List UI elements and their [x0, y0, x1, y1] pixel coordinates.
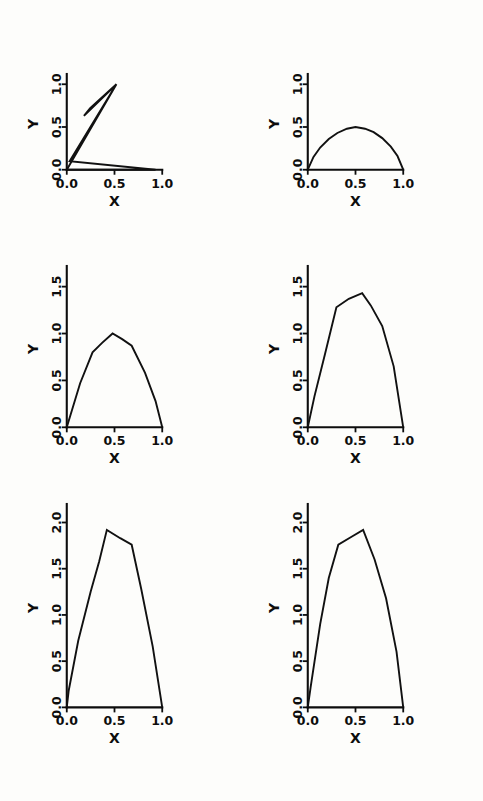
y-tick-label: 1.5: [290, 276, 305, 298]
x-tick-label: 0.5: [344, 713, 366, 728]
plot-panel-5: 0.00.51.00.00.51.01.52.0XY: [0, 490, 241, 740]
y-tick-label: 0.5: [49, 116, 64, 138]
figure-canvas: 0.00.51.00.00.51.0XY 0.00.51.00.00.51.0X…: [0, 0, 483, 801]
plot-panel: 0.00.51.00.00.51.0XY: [241, 14, 482, 264]
x-tick-label: 0.5: [103, 176, 125, 191]
y-tick-label: 0.5: [290, 116, 305, 138]
y-axis-title: Y: [25, 343, 41, 355]
x-axis-title: X: [350, 193, 361, 209]
x-tick-label: 0.5: [103, 713, 125, 728]
y-tick-label: 1.0: [49, 322, 64, 344]
y-axis-title: Y: [266, 343, 282, 355]
y-tick-label: 0.0: [49, 696, 64, 718]
y-tick-label: 0.0: [290, 158, 305, 180]
y-tick-label: 1.0: [290, 73, 305, 95]
x-tick-label: 1.0: [151, 713, 173, 728]
x-axis-title: X: [109, 450, 120, 466]
x-axis-title: X: [350, 730, 361, 746]
x-tick-label: 1.0: [392, 433, 414, 448]
plot-panel-6: 0.00.51.00.00.51.01.52.0XY: [241, 490, 482, 740]
x-axis-title: X: [350, 450, 361, 466]
y-axis-title: Y: [266, 118, 282, 130]
x-tick-label: 0.5: [103, 433, 125, 448]
y-tick-label: 0.0: [290, 696, 305, 718]
plot-panel-1: 0.00.51.00.00.51.0XY: [0, 14, 241, 264]
y-axis-title: Y: [25, 118, 41, 130]
y-axis-title: Y: [266, 602, 282, 614]
data-curve: [308, 293, 403, 427]
y-tick-label: 0.0: [49, 158, 64, 180]
y-tick-label: 1.0: [290, 322, 305, 344]
y-tick-label: 0.5: [290, 369, 305, 391]
y-tick-label: 1.5: [49, 276, 64, 298]
data-curve: [308, 530, 403, 708]
plot-panel-3: 0.00.51.00.00.51.01.5XY: [0, 248, 241, 498]
x-tick-label: 0.5: [344, 176, 366, 191]
y-tick-label: 0.0: [290, 416, 305, 438]
x-axis-title: X: [109, 193, 120, 209]
plot-panel: 0.00.51.00.00.51.01.52.0XY: [241, 490, 482, 740]
x-tick-label: 0.5: [344, 433, 366, 448]
y-tick-label: 0.5: [290, 650, 305, 672]
plot-panel-2: 0.00.51.00.00.51.0XY: [241, 14, 482, 264]
x-tick-label: 1.0: [392, 176, 414, 191]
x-tick-label: 1.0: [392, 713, 414, 728]
y-tick-label: 0.0: [49, 416, 64, 438]
y-tick-label: 2.0: [290, 511, 305, 533]
data-curve: [67, 84, 156, 169]
x-tick-label: 1.0: [151, 176, 173, 191]
x-tick-label: 1.0: [151, 433, 173, 448]
plot-panel: 0.00.51.00.00.51.01.5XY: [241, 248, 482, 498]
plot-panel: 0.00.51.00.00.51.01.52.0XY: [0, 490, 241, 740]
y-tick-label: 2.0: [49, 511, 64, 533]
y-tick-label: 1.5: [49, 558, 64, 580]
data-curve: [308, 127, 403, 170]
y-axis-title: Y: [25, 602, 41, 614]
data-curve: [67, 530, 162, 708]
y-tick-label: 0.5: [49, 369, 64, 391]
y-tick-label: 1.0: [49, 73, 64, 95]
y-tick-label: 1.0: [290, 604, 305, 626]
y-tick-label: 1.5: [290, 558, 305, 580]
data-curve: [67, 334, 162, 428]
y-tick-label: 0.5: [49, 650, 64, 672]
plot-panel-4: 0.00.51.00.00.51.01.5XY: [241, 248, 482, 498]
x-axis-title: X: [109, 730, 120, 746]
y-tick-label: 1.0: [49, 604, 64, 626]
plot-panel: 0.00.51.00.00.51.01.5XY: [0, 248, 241, 498]
plot-panel: 0.00.51.00.00.51.0XY: [0, 14, 241, 264]
